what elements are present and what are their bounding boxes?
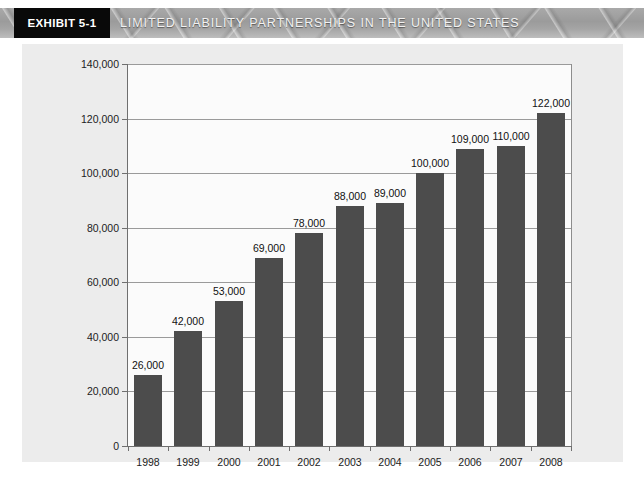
bar-1999 [174,331,202,446]
bar-2005 [416,173,444,446]
x-axis-tick-label: 2003 [338,456,361,468]
x-axis-tick-label: 2007 [499,456,522,468]
bar-2008 [537,113,565,446]
x-axis-tick-label: 2001 [257,456,280,468]
bar-value-label: 69,000 [253,242,285,254]
bar-2006 [456,149,484,446]
bar-value-label: 100,000 [411,157,449,169]
y-axis-tick-label: 60,000 [87,276,119,288]
x-axis-tick-label: 2004 [378,456,401,468]
bar-value-label: 88,000 [334,190,366,202]
bar-2001 [255,258,283,446]
exhibit-tag-label: EXHIBIT 5-1 [27,17,96,29]
chart-panel: 020,00040,00060,00080,000100,000120,0001… [22,44,623,462]
x-axis-line [127,446,572,447]
bar-value-label: 109,000 [451,133,489,145]
y-axis-tick-label: 120,000 [81,113,119,125]
plot-area: 020,00040,00060,00080,000100,000120,0001… [128,64,571,446]
x-axis-tick-label: 2000 [217,456,240,468]
x-axis-tick-label: 1999 [176,456,199,468]
exhibit-header-band: EXHIBIT 5-1 LIMITED LIABILITY PARTNERSHI… [0,8,644,38]
bar-value-label: 78,000 [293,217,325,229]
y-axis-tick-label: 100,000 [81,167,119,179]
bar-value-label: 53,000 [213,285,245,297]
exhibit-page: EXHIBIT 5-1 LIMITED LIABILITY PARTNERSHI… [0,0,644,479]
gridline [128,64,571,65]
x-axis-tick-label: 2006 [458,456,481,468]
y-axis-tick-label: 0 [113,440,119,452]
plot-right-border [571,64,572,447]
x-axis-tick-label: 2002 [297,456,320,468]
bar-value-label: 122,000 [532,97,570,109]
bar-value-label: 42,000 [172,315,204,327]
y-axis-tick-label: 40,000 [87,331,119,343]
bar-2003 [336,206,364,446]
y-axis-tick-label: 140,000 [81,58,119,70]
exhibit-tag: EXHIBIT 5-1 [14,8,110,38]
bar-2004 [376,203,404,446]
bar-value-label: 110,000 [492,130,529,142]
exhibit-title: LIMITED LIABILITY PARTNERSHIPS IN THE UN… [120,8,519,38]
y-axis-tick-label: 20,000 [87,385,119,397]
bar-2007 [497,146,525,446]
bar-2000 [215,301,243,446]
bar-value-label: 26,000 [132,359,164,371]
x-axis-tick-label: 2008 [539,456,562,468]
y-axis-tick-label: 80,000 [87,222,119,234]
x-axis-tick-label: 1998 [136,456,159,468]
gridline [128,119,571,120]
bar-1998 [134,375,162,446]
x-axis-tick-label: 2005 [418,456,441,468]
bar-2002 [295,233,323,446]
bar-value-label: 89,000 [374,187,406,199]
y-axis-line [127,64,128,446]
